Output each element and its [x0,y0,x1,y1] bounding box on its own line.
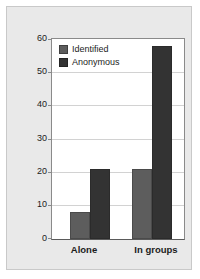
y-tick-mark-0 [48,238,52,239]
legend-item-anonymous: Anonymous [59,56,120,68]
y-tick-label-0: 0 [25,234,47,243]
y-tick-label-20: 20 [25,167,47,176]
bar-ingroups-anonymous [152,46,172,239]
y-tick-label-30: 30 [25,134,47,143]
y-tick-mark-60 [48,39,52,40]
chart-legend: Identified Anonymous [57,41,124,71]
y-tick-label-10: 10 [25,200,47,209]
legend-swatch-icon-identified [59,45,68,54]
chart-figure: Percent stealing candy 0 10 20 30 40 50 … [0,0,200,279]
legend-swatch-icon-anonymous [59,58,68,67]
y-tick-label-60: 60 [25,34,47,43]
y-tick-label-40: 40 [25,100,47,109]
x-tick-label-alone: Alone [59,244,109,255]
bar-ingroups-identified [132,169,152,239]
y-tick-mark-10 [48,205,52,206]
x-tick-label-ingroups: In groups [126,244,186,255]
bar-alone-anonymous [90,169,110,239]
bar-alone-identified [70,212,90,239]
y-tick-label-50: 50 [25,67,47,76]
y-tick-mark-30 [48,139,52,140]
y-tick-mark-50 [48,72,52,73]
legend-label-identified: Identified [72,44,109,54]
legend-item-identified: Identified [59,43,120,55]
y-tick-mark-20 [48,172,52,173]
legend-label-anonymous: Anonymous [72,57,120,67]
y-tick-mark-40 [48,105,52,106]
